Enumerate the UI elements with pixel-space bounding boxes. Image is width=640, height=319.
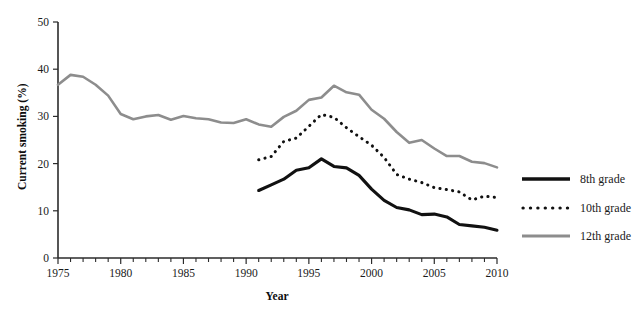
y-tick-label: 30	[38, 110, 50, 122]
y-axis-tick-labels: 01020304050	[38, 16, 50, 264]
chart-canvas: Current smoking (%) 01020304050 19751980…	[0, 0, 640, 319]
y-tick-label: 40	[38, 63, 50, 75]
y-tick-label: 50	[38, 16, 50, 28]
legend-item-12th-grade[interactable]: 12th grade	[522, 229, 631, 243]
y-tick-label: 20	[38, 158, 50, 170]
legend-item-8th-grade[interactable]: 8th grade	[522, 172, 625, 186]
x-tick-label: 1990	[235, 267, 258, 279]
chart-legend: 8th grade 10th grade 12th grade	[522, 172, 631, 243]
legend-label-8th-grade: 8th grade	[580, 172, 625, 186]
legend-label-10th-grade: 10th grade	[580, 201, 631, 215]
x-tick-label: 1980	[109, 267, 132, 279]
x-axis-tick-labels: 19751980198519901995200020052010	[47, 267, 509, 279]
x-tick-label: 1985	[172, 267, 195, 279]
y-axis-title: Current smoking (%)	[16, 83, 29, 190]
x-axis-title: Year	[266, 290, 289, 302]
smoking-trend-chart: Current smoking (%) 01020304050 19751980…	[0, 0, 640, 319]
legend-item-10th-grade[interactable]: 10th grade	[523, 201, 631, 215]
x-tick-label: 2000	[360, 267, 383, 279]
x-tick-label: 2010	[486, 267, 509, 279]
legend-label-12th-grade: 12th grade	[580, 229, 631, 243]
series-line-12th-grade	[58, 75, 497, 168]
y-tick-label: 0	[43, 252, 49, 264]
x-tick-label: 2005	[423, 267, 446, 279]
x-tick-label: 1995	[297, 267, 320, 279]
y-tick-label: 10	[38, 205, 50, 217]
x-tick-label: 1975	[47, 267, 70, 279]
series-line-8th-grade	[259, 159, 497, 230]
x-axis-ticks	[58, 258, 497, 264]
